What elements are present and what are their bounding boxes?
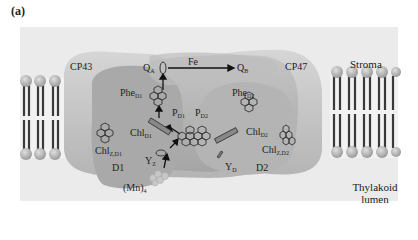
cp43-label: CP43 <box>70 62 92 72</box>
p-d1-label: PD1 <box>172 108 185 121</box>
chl-d1-label: ChlD1 <box>130 128 152 141</box>
chl-d2-label: ChlD2 <box>246 127 268 140</box>
lumen-label-line1: Thylakoid <box>344 181 406 193</box>
mn-label: (Mn)4 <box>123 183 147 196</box>
phe-d2-label: PheD2 <box>232 88 254 101</box>
fe-label: Fe <box>188 57 198 67</box>
d1-label: D1 <box>112 163 124 173</box>
chlz-d1-label: ChlZ,D1 <box>95 146 122 159</box>
lipid-bilayer-left <box>20 75 68 160</box>
yz-label: YZ <box>145 156 156 169</box>
lipid-bilayer-right <box>330 66 401 158</box>
lumen-label-line2: lumen <box>344 193 406 205</box>
yd-label: YD <box>225 162 237 175</box>
stroma-label: Stroma <box>350 58 382 70</box>
qa-label: QA <box>143 63 155 76</box>
chlz-d2-label: ChlZ,D2 <box>262 145 289 158</box>
phe-d1-label: PheD1 <box>120 88 142 101</box>
d2-label: D2 <box>256 163 268 173</box>
qb-label: QB <box>237 63 248 76</box>
cp47-label: CP47 <box>285 62 307 72</box>
p-d2-label: PD2 <box>195 108 208 121</box>
lumen-label: Thylakoid lumen <box>344 181 406 205</box>
protein-complex <box>64 50 322 189</box>
